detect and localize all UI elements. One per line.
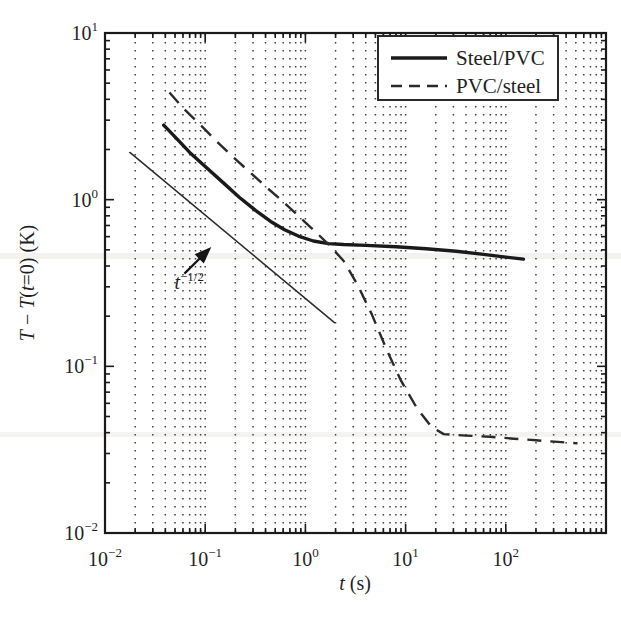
- scan-artifact-band-2: [0, 432, 621, 437]
- legend-label-steel-pvc: Steel/PVC: [456, 46, 545, 70]
- annotation-label-exponent: −1/2: [180, 269, 204, 284]
- scan-artifact-band: [0, 253, 621, 259]
- legend-label-pvc-steel: PVC/steel: [456, 74, 541, 98]
- legend: Steel/PVC PVC/steel: [378, 36, 558, 100]
- y-axis-label: T − T(t=0) (K): [16, 225, 39, 341]
- chart-svg: t−1/2 10−210−1100101102 10110010−110−2 t…: [0, 0, 621, 619]
- log-log-chart-figure: t−1/2 10−210−1100101102 10110010−110−2 t…: [0, 0, 621, 619]
- x-axis-label: t (s): [339, 572, 371, 595]
